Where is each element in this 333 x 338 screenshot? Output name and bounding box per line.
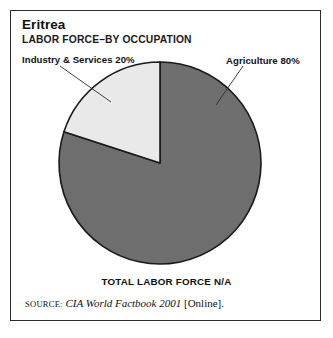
- source-medium: [Online].: [184, 297, 224, 309]
- source-work-title: CIA World Factbook 2001: [65, 297, 181, 309]
- slice-label-industry-services: Industry & Services 20%: [22, 54, 135, 65]
- total-labor-force-note: TOTAL LABOR FORCE N/A: [0, 276, 333, 287]
- page-title: Eritrea: [22, 17, 65, 32]
- source-keyword: Source:: [25, 299, 63, 309]
- figure-panel: Eritrea LABOR FORCE–BY OCCUPATION Indust…: [0, 0, 333, 338]
- source-citation: Source: CIA World Factbook 2001 [Online]…: [25, 297, 224, 309]
- figure-subtitle: LABOR FORCE–BY OCCUPATION: [22, 34, 192, 45]
- slice-label-agriculture: Agriculture 80%: [226, 55, 300, 66]
